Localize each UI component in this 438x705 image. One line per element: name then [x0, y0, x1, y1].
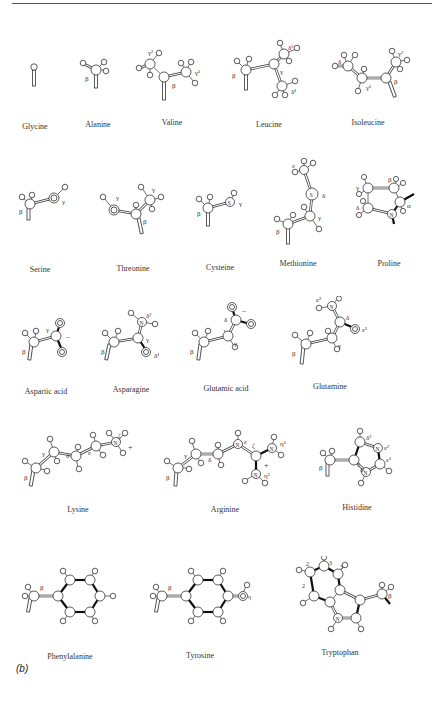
svg-text:N: N — [114, 440, 118, 446]
top-rule — [12, 3, 432, 4]
svg-text:β: β — [190, 348, 194, 356]
svg-text:γ²: γ² — [147, 49, 153, 57]
svg-text:3: 3 — [340, 564, 343, 570]
svg-text:δ: δ — [322, 192, 326, 200]
histidine-structure: N N β γ δ² ε² ε¹ δ¹ — [316, 426, 406, 502]
svg-text:+: + — [128, 443, 133, 452]
svg-text:S: S — [228, 200, 231, 206]
svg-text:β: β — [24, 474, 28, 482]
svg-text:N: N — [270, 446, 274, 452]
label-proline: Proline — [377, 259, 400, 268]
svg-text:β: β — [22, 348, 26, 356]
label-arginine: Arginine — [211, 505, 239, 514]
svg-text:N: N — [140, 320, 144, 326]
svg-text:N: N — [336, 616, 340, 622]
svg-text:δ: δ — [224, 316, 228, 324]
glycine-structure — [22, 58, 52, 98]
label-alanine: Alanine — [85, 120, 110, 129]
svg-text:β: β — [394, 78, 398, 86]
phenylalanine-structure: β — [18, 566, 128, 638]
svg-text:N: N — [330, 304, 334, 310]
label-glutamine: Glutamine — [313, 382, 347, 391]
leucine-structure: β γ δ² δ¹ — [228, 38, 318, 110]
svg-text:η¹: η¹ — [280, 440, 286, 448]
svg-text:δ¹: δ¹ — [291, 88, 296, 96]
svg-text:+: + — [264, 461, 269, 470]
lysine-structure: N β γ δ ε ζ + — [18, 428, 138, 500]
svg-text:N: N — [390, 212, 394, 218]
arginine-structure: N N N β γ δ ε ζ η¹ + η² — [160, 424, 290, 500]
svg-text:δ¹: δ¹ — [154, 352, 159, 360]
svg-text:δ²: δ² — [288, 44, 293, 52]
svg-text:β: β — [319, 464, 323, 472]
svg-text:ε: ε — [244, 438, 247, 446]
svg-text:γ: γ — [317, 214, 321, 222]
svg-text:δ¹: δ¹ — [360, 467, 365, 473]
svg-text:β: β — [166, 474, 170, 482]
label-valine: Valine — [162, 118, 182, 127]
svg-text:γ¹: γ¹ — [365, 84, 371, 92]
label-histidine: Histidine — [342, 503, 371, 512]
svg-text:δ: δ — [208, 456, 212, 464]
label-aspartic-acid: Aspartic acid — [25, 387, 67, 396]
label-glutamic-acid: Glutamic acid — [203, 384, 248, 393]
svg-text:N: N — [254, 472, 258, 478]
aspartic-acid-structure: β γ − — [18, 316, 78, 372]
svg-text:β: β — [168, 584, 172, 592]
svg-text:3: 3 — [329, 560, 332, 566]
tryptophan-structure: N 2 3 3 2 β — [284, 556, 404, 646]
svg-text:β: β — [172, 82, 176, 90]
label-asparagine: Asparagine — [113, 385, 149, 394]
alanine-structure: β — [72, 52, 112, 97]
svg-text:N: N — [236, 442, 240, 448]
svg-text:β: β — [292, 350, 296, 358]
cysteine-structure: S β γ — [190, 186, 250, 236]
label-tryptophan: Tryptophan — [321, 648, 358, 657]
svg-text:α: α — [407, 202, 411, 210]
svg-text:γ²: γ² — [397, 50, 403, 58]
label-glycine: Glycine — [22, 122, 47, 131]
svg-text:δ: δ — [346, 314, 350, 322]
svg-text:γ: γ — [115, 194, 119, 202]
serine-structure: β γ — [14, 182, 74, 232]
svg-text:γ: γ — [45, 326, 49, 334]
svg-text:N: N — [376, 446, 380, 452]
svg-text:γ: γ — [238, 200, 242, 208]
svg-text:γ: γ — [61, 198, 65, 206]
svg-text:γ: γ — [355, 184, 359, 192]
label-lysine: Lysine — [67, 505, 88, 514]
svg-text:β: β — [232, 72, 236, 80]
tyrosine-structure: β η — [146, 566, 258, 638]
svg-text:ε²: ε² — [316, 296, 321, 304]
svg-text:β: β — [40, 584, 44, 592]
label-tyrosine: Tyrosine — [186, 651, 214, 660]
svg-text:δ: δ — [356, 204, 360, 212]
label-leucine: Leucine — [256, 120, 282, 129]
asparagine-structure: N β γ δ² δ¹ — [96, 306, 168, 372]
svg-text:β: β — [197, 210, 201, 218]
proline-structure: N γ β δ α — [352, 172, 424, 242]
label-serine: Serine — [30, 265, 50, 274]
svg-text:β: β — [19, 208, 23, 216]
svg-text:δ²: δ² — [366, 434, 371, 442]
svg-text:γ: γ — [41, 450, 45, 458]
svg-text:β: β — [388, 176, 392, 184]
svg-text:β: β — [276, 228, 280, 236]
label-methionine: Methionine — [280, 259, 317, 268]
label-cysteine: Cysteine — [206, 263, 234, 272]
svg-text:β: β — [101, 348, 105, 356]
svg-text:ε¹: ε¹ — [386, 456, 391, 464]
label-phenylalanine: Phenylalanine — [47, 652, 92, 661]
svg-text:γ¹: γ¹ — [194, 69, 200, 77]
svg-text:η²: η² — [264, 472, 270, 480]
svg-text:η: η — [248, 594, 251, 600]
svg-text:ε: ε — [88, 449, 91, 457]
svg-text:S: S — [310, 192, 313, 198]
glutamine-structure: N β γ δ ε² ε¹ — [288, 296, 368, 376]
methionine-structure: S ε δ γ β — [268, 158, 338, 254]
svg-text:γ: γ — [151, 186, 155, 194]
label-isoleucine: Isoleucine — [352, 118, 385, 127]
valine-structure: γ² β γ¹ — [134, 42, 214, 107]
svg-text:ζ: ζ — [252, 442, 255, 450]
svg-text:β: β — [143, 218, 147, 226]
